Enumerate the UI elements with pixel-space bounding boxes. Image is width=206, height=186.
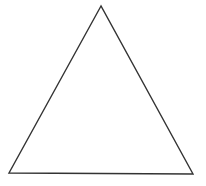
triangle-shape xyxy=(9,6,193,174)
diagram-canvas xyxy=(0,0,206,186)
